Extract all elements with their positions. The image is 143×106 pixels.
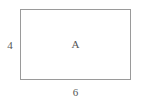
rectangle-width-label: 6 [20,87,131,98]
figure-canvas: A 4 6 [0,0,143,106]
rectangle-height-label: 4 [0,40,20,51]
rectangle-interior-label: A [20,39,131,50]
